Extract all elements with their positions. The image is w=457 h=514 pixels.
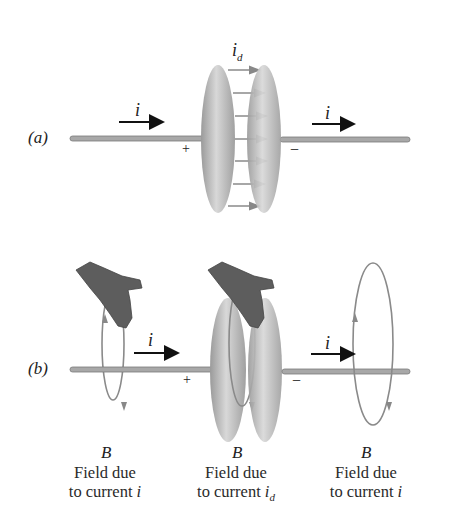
caption-middle: Field due to current id (176, 463, 296, 507)
caption-line2: to current (69, 482, 133, 501)
minus-sign: − (290, 141, 299, 159)
minus-sign: − (292, 372, 301, 390)
panel-a (70, 65, 410, 213)
caption-line1: Field due (306, 463, 426, 482)
capacitor-plate-left (201, 65, 235, 213)
field-symbol-middle: B (232, 443, 242, 463)
displacement-current-diagram (0, 0, 457, 514)
current-label-right: i (325, 333, 330, 354)
plus-sign: + (182, 141, 190, 157)
caption-line1: Field due (176, 463, 296, 482)
capacitor-plate-left (210, 298, 246, 442)
panel-a-label: (a) (28, 128, 48, 148)
current-label-left: i (148, 330, 153, 351)
hand-icon-left (76, 262, 142, 328)
caption-right: Field due to current i (306, 463, 426, 501)
caption-line1: Field due (45, 463, 165, 482)
wire-right (282, 369, 410, 374)
caption-subscript: d (269, 491, 275, 503)
field-symbol-left: B (101, 443, 111, 463)
caption-var: i (398, 482, 403, 501)
current-label-right: i (325, 103, 330, 124)
displacement-current-label: id (232, 40, 243, 63)
field-loop-right (353, 263, 393, 425)
current-label-left: i (135, 100, 140, 121)
panel-b (70, 262, 410, 442)
displacement-current-subscript: d (237, 51, 243, 63)
caption-line2: to current (330, 482, 394, 501)
caption-line2: to current (197, 482, 261, 501)
caption-var: i (137, 482, 142, 501)
wire-left (70, 136, 218, 141)
wire-right (280, 137, 410, 142)
caption-left: Field due to current i (45, 463, 165, 501)
panel-b-label: (b) (28, 359, 48, 379)
field-symbol-right: B (361, 443, 371, 463)
wire-left (70, 367, 218, 372)
capacitor-plate-right (247, 65, 281, 213)
plus-sign: + (183, 372, 191, 388)
